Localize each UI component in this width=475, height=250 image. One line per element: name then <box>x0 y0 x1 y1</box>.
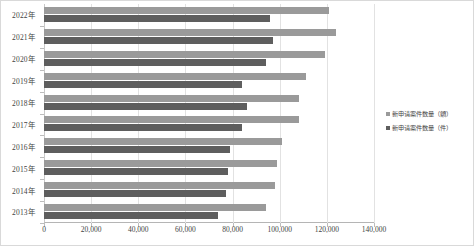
bar <box>44 59 266 66</box>
y-axis-tick-label: 2013年 <box>0 201 40 223</box>
bar <box>44 73 306 80</box>
gridline <box>374 4 375 223</box>
bar-group <box>44 92 374 114</box>
bar <box>44 190 226 197</box>
chart-legend: 新申请案件数量（額）新申请案件数量（件） <box>386 110 472 138</box>
bar-group <box>44 135 374 157</box>
bar <box>44 168 228 175</box>
y-axis-tick <box>40 223 44 224</box>
bar <box>44 103 247 110</box>
bar <box>44 138 282 145</box>
y-axis-tick <box>40 201 44 202</box>
bar <box>44 15 270 22</box>
y-axis-tick-label: 2021年 <box>0 26 40 48</box>
bar <box>44 204 266 211</box>
y-axis-tick-label: 2017年 <box>0 113 40 135</box>
y-axis-tick-label: 2018年 <box>0 92 40 114</box>
legend-label: 新申请案件数量（件） <box>392 124 452 132</box>
bar <box>44 51 325 58</box>
bar <box>44 29 336 36</box>
bar <box>44 182 275 189</box>
bar <box>44 81 242 88</box>
bar <box>44 146 230 153</box>
bar <box>44 7 329 14</box>
y-axis-tick <box>40 114 44 115</box>
bar-group <box>44 70 374 92</box>
x-axis-tick-label: 120,000 <box>315 225 339 234</box>
bar-group <box>44 48 374 70</box>
bar <box>44 212 218 219</box>
bar-group <box>44 113 374 135</box>
y-axis-tick-label: 2019年 <box>0 70 40 92</box>
y-axis-tick <box>40 26 44 27</box>
y-axis-tick-label: 2014年 <box>0 179 40 201</box>
y-axis-tick <box>40 135 44 136</box>
bar-group <box>44 201 374 223</box>
x-axis-tick-label: 40,000 <box>128 225 149 234</box>
legend-label: 新申请案件数量（額） <box>392 110 452 118</box>
bar-group <box>44 4 374 26</box>
x-axis-tick-label: 20,000 <box>81 225 102 234</box>
bar-group <box>44 26 374 48</box>
legend-swatch-icon <box>386 126 390 130</box>
bar <box>44 95 299 102</box>
bar <box>44 160 277 167</box>
y-axis-tick <box>40 179 44 180</box>
x-axis-tick-label: 140,000 <box>362 225 386 234</box>
bar <box>44 124 242 131</box>
y-axis-tick-label: 2020年 <box>0 48 40 70</box>
legend-item[interactable]: 新申请案件数量（額） <box>386 110 472 118</box>
y-axis-tick <box>40 70 44 71</box>
x-axis-tick-label: 80,000 <box>222 225 243 234</box>
y-axis-tick <box>40 157 44 158</box>
bar-group <box>44 157 374 179</box>
bar-group <box>44 179 374 201</box>
x-axis-tick-label: 100,000 <box>268 225 292 234</box>
legend-item[interactable]: 新申请案件数量（件） <box>386 124 472 132</box>
bar-rows <box>44 4 374 223</box>
y-axis-tick-label: 2022年 <box>0 4 40 26</box>
y-axis-labels: 2022年2021年2020年2019年2018年2017年2016年2015年… <box>0 4 40 223</box>
x-axis-labels: 020,00040,00060,00080,000100,000120,0001… <box>0 225 475 239</box>
x-axis-tick-label: 0 <box>42 225 46 234</box>
y-axis-tick <box>40 48 44 49</box>
y-axis-tick <box>40 92 44 93</box>
legend-swatch-icon <box>386 112 390 116</box>
y-axis-tick-label: 2015年 <box>0 157 40 179</box>
x-axis-tick-label: 60,000 <box>175 225 196 234</box>
bar <box>44 116 299 123</box>
bar-chart: 2022年2021年2020年2019年2018年2017年2016年2015年… <box>0 0 475 250</box>
y-axis-tick-label: 2016年 <box>0 135 40 157</box>
bar <box>44 37 273 44</box>
